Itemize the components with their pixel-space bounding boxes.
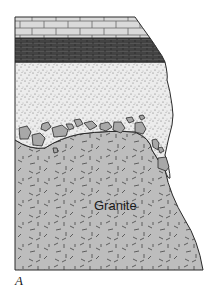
geologic-cross-section: Granite A <box>0 0 218 291</box>
granite-label: Granite <box>94 198 137 213</box>
limestone-layer <box>15 17 150 38</box>
figure-label: A <box>14 273 23 288</box>
shale-layer <box>15 38 165 62</box>
